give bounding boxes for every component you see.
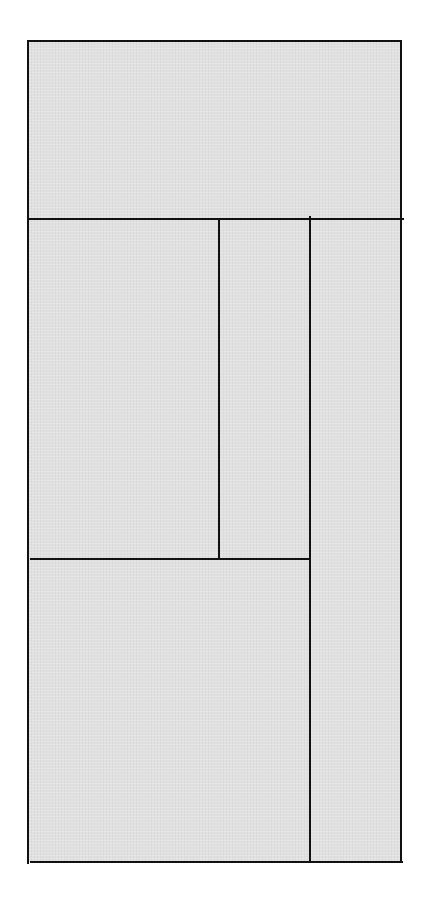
divider-horizontal-upper <box>28 218 404 220</box>
bottom-left-panel <box>28 559 309 862</box>
artwork-canvas <box>28 41 402 862</box>
middle-left-panel <box>28 219 219 559</box>
top-panel <box>28 41 402 219</box>
divider-vertical-right <box>309 216 311 862</box>
right-tall-panel <box>309 219 402 862</box>
border-left <box>27 40 29 864</box>
border-top <box>27 40 401 42</box>
middle-center-panel <box>219 219 309 559</box>
border-right <box>400 40 402 863</box>
border-bottom <box>30 861 403 863</box>
divider-vertical-left <box>218 219 220 560</box>
divider-horizontal-lower <box>30 558 310 560</box>
